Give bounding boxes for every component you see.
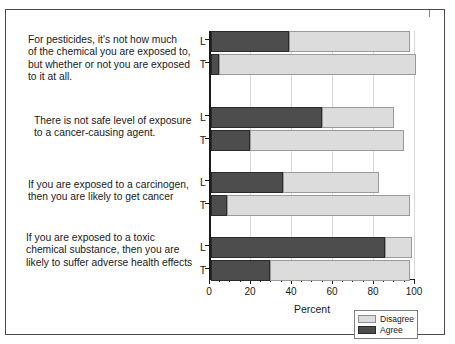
corner-tick-mark: [429, 10, 430, 17]
bar-segment-disagree[interactable]: [283, 172, 379, 193]
group-label-carcinogen: If you are exposed to a carcinogen, then…: [28, 179, 202, 204]
xtick-label-0: 0: [206, 286, 212, 297]
xtick-label-80: 80: [367, 286, 378, 297]
row-tick-label-g4-t: T: [198, 260, 208, 281]
group-label-safe-level: There is not safe level of exposure to a…: [34, 115, 202, 140]
row-tick-label-g2-l: L: [198, 107, 208, 128]
xtick-label-100: 100: [406, 286, 423, 297]
bar-segment-disagree[interactable]: [289, 31, 410, 52]
bar-segment-agree[interactable]: [211, 31, 289, 52]
chart-figure: For pesticides, it's not how much of the…: [5, 9, 445, 335]
bar-segment-disagree[interactable]: [250, 130, 404, 151]
bar-segment-agree[interactable]: [211, 237, 385, 258]
x-axis-title: Percent: [294, 303, 330, 315]
legend-item-disagree[interactable]: Disagree: [358, 314, 414, 324]
row-tick-label-g3-t: T: [198, 195, 208, 216]
bar-segment-agree[interactable]: [211, 107, 322, 128]
group-label-toxic-substance: If you are exposed to a toxic chemical s…: [26, 232, 204, 269]
bar-segment-agree[interactable]: [211, 172, 283, 193]
legend-label-disagree: Disagree: [380, 314, 414, 324]
bar-segment-disagree[interactable]: [322, 107, 394, 128]
xtick-label-60: 60: [326, 286, 337, 297]
group-label-pesticides: For pesticides, it's not how much of the…: [28, 34, 200, 84]
bar-segment-agree[interactable]: [211, 130, 250, 151]
bar-segment-agree[interactable]: [211, 195, 227, 216]
bar-segment-disagree[interactable]: [385, 237, 412, 258]
plot-area: 0 20 40 60 80 100 Percent L T L T: [209, 31, 419, 279]
row-tick-label-g3-l: L: [198, 172, 208, 193]
legend-swatch-agree-icon: [358, 326, 376, 334]
bar-segment-disagree[interactable]: [219, 54, 416, 75]
chart-legend: Disagree Agree: [354, 310, 418, 339]
xtick-100: [414, 279, 415, 284]
legend-label-agree: Agree: [380, 325, 403, 335]
xtick-label-40: 40: [285, 286, 296, 297]
legend-item-agree[interactable]: Agree: [358, 325, 414, 335]
row-tick-label-g4-l: L: [198, 237, 208, 258]
row-tick-label-g1-l: L: [198, 31, 208, 52]
xtick-0: [209, 279, 210, 284]
bar-segment-agree[interactable]: [211, 260, 270, 281]
xtick-label-20: 20: [244, 286, 255, 297]
bar-segment-disagree[interactable]: [270, 260, 410, 281]
legend-swatch-disagree-icon: [358, 315, 376, 323]
row-tick-label-g2-t: T: [198, 130, 208, 151]
bar-segment-disagree[interactable]: [227, 195, 410, 216]
row-tick-label-g1-t: T: [198, 54, 208, 75]
bar-segment-agree[interactable]: [211, 54, 219, 75]
